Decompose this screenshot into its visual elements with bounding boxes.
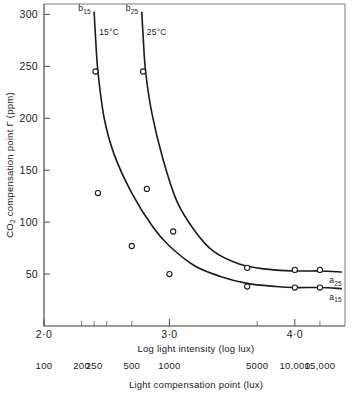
figure-container: 50100150200250300 2·03·04·0 b1515°Ca15b2… xyxy=(0,0,355,394)
x-tick-label: 4·0 xyxy=(287,328,303,340)
data-point xyxy=(317,267,322,272)
data-point-markers xyxy=(93,69,323,290)
data-point xyxy=(140,69,145,74)
y-tick-label: 250 xyxy=(20,60,38,72)
temperature-label-25C: 25°C xyxy=(147,27,167,37)
y-axis-title-rest: compensation point Γ (ppm) xyxy=(4,92,15,219)
start-label-25C: b25 xyxy=(126,3,139,15)
end-label-15C: a15 xyxy=(329,292,342,304)
x-tick-label: 2·0 xyxy=(36,328,52,340)
y-tick-label: 300 xyxy=(20,8,38,20)
svg-text:CO2 compensation point Γ (ppm): CO2 compensation point Γ (ppm) xyxy=(4,92,16,238)
data-point xyxy=(93,69,98,74)
lux-tick-label: 5000 xyxy=(246,360,268,371)
data-point xyxy=(245,284,250,289)
x-axis-tick-labels: 2·03·04·0 xyxy=(36,328,303,340)
secondary-x-axis-title: Light compensation point (lux) xyxy=(129,379,263,390)
y-axis-tick-labels: 50100150200250300 xyxy=(20,8,38,280)
y-tick-label: 150 xyxy=(20,164,38,176)
x-tick-label: 3·0 xyxy=(161,328,177,340)
frame-top-right xyxy=(44,4,345,326)
data-point xyxy=(245,265,250,270)
y-tick-label: 100 xyxy=(20,216,38,228)
axis-left-bottom xyxy=(44,4,345,326)
y-axis-ticks xyxy=(44,14,50,274)
y-axis-title-main: CO xyxy=(4,223,15,238)
y-tick-label: 200 xyxy=(20,112,38,124)
lux-tick-label: 1000 xyxy=(158,360,180,371)
end-label-25C: a25 xyxy=(329,275,342,287)
data-point xyxy=(317,285,322,290)
data-point xyxy=(171,229,176,234)
temperature-label-15C: 15°C xyxy=(99,27,119,37)
x-axis-title: Log light intensity (log lux) xyxy=(137,343,254,354)
start-label-15C: b15 xyxy=(78,3,91,15)
data-point xyxy=(95,190,100,195)
lux-tick-label: 100 xyxy=(36,360,53,371)
plot-frame xyxy=(44,4,345,326)
co2-compensation-point-chart: 50100150200250300 2·03·04·0 b1515°Ca15b2… xyxy=(0,0,355,394)
data-point xyxy=(292,267,297,272)
data-point xyxy=(292,285,297,290)
y-tick-label: 50 xyxy=(26,268,38,280)
lux-tick-label: 15,000 xyxy=(304,360,335,371)
x-axis-ticks xyxy=(44,319,320,326)
lux-tick-label: 250 xyxy=(86,360,103,371)
data-point xyxy=(129,243,134,248)
series-annotations: b1515°Ca15b2525°Ca25 xyxy=(78,3,342,303)
data-point xyxy=(167,271,172,276)
y-axis-title: CO2 compensation point Γ (ppm) xyxy=(4,92,16,238)
data-point xyxy=(144,186,149,191)
lux-tick-label: 500 xyxy=(123,360,140,371)
secondary-axis-labels: 1002002505001000500010,00015,000 xyxy=(36,360,336,371)
